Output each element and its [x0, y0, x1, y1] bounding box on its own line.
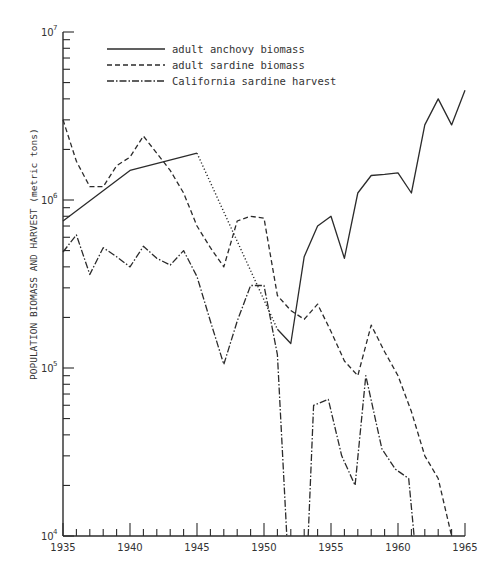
x-tick-label: 1960 [385, 542, 410, 553]
x-tick-label: 1935 [50, 542, 75, 553]
legend-label: adult sardine biomass [172, 59, 305, 71]
sardine-biomass-line [63, 120, 452, 536]
svg-text:6: 6 [53, 192, 58, 200]
legend: adult anchovy biomass adult sardine biom… [107, 43, 336, 87]
anchovy-line [277, 90, 465, 343]
sardine-harvest-line [308, 376, 414, 536]
y-tick-label: 105 [41, 360, 57, 374]
x-tick-label: 1965 [452, 542, 477, 553]
y-tick-label: 107 [41, 24, 57, 38]
x-tick-label: 1940 [117, 542, 142, 553]
series-lines [63, 90, 465, 536]
legend-label: adult anchovy biomass [172, 43, 305, 55]
legend-item-sardine: adult sardine biomass [107, 59, 305, 71]
x-tick-label: 1950 [251, 542, 276, 553]
svg-text:7: 7 [53, 24, 57, 32]
axes: 1071061051041935194019451950195519601965 [41, 24, 478, 553]
legend-item-anchovy: adult anchovy biomass [107, 43, 305, 55]
svg-text:10: 10 [41, 531, 54, 542]
sardine-harvest-line [63, 235, 287, 536]
y-tick-label: 106 [41, 192, 58, 206]
svg-text:5: 5 [53, 360, 57, 368]
svg-text:4: 4 [53, 528, 58, 536]
anchovy-interpolated-dotted-line [197, 153, 277, 329]
x-tick-label: 1945 [184, 542, 209, 553]
y-axis-title: POPULATION BIOMASS AND HARVEST (metric t… [28, 128, 39, 380]
svg-text:10: 10 [41, 27, 54, 38]
svg-text:10: 10 [41, 195, 54, 206]
y-tick-label: 104 [41, 528, 58, 542]
svg-text:10: 10 [41, 363, 54, 374]
legend-label: California sardine harvest [172, 75, 336, 87]
anchovy-line [63, 153, 197, 221]
chart-canvas: 1071061051041935194019451950195519601965… [0, 0, 493, 565]
x-tick-label: 1955 [318, 542, 343, 553]
legend-item-harvest: California sardine harvest [107, 75, 336, 87]
